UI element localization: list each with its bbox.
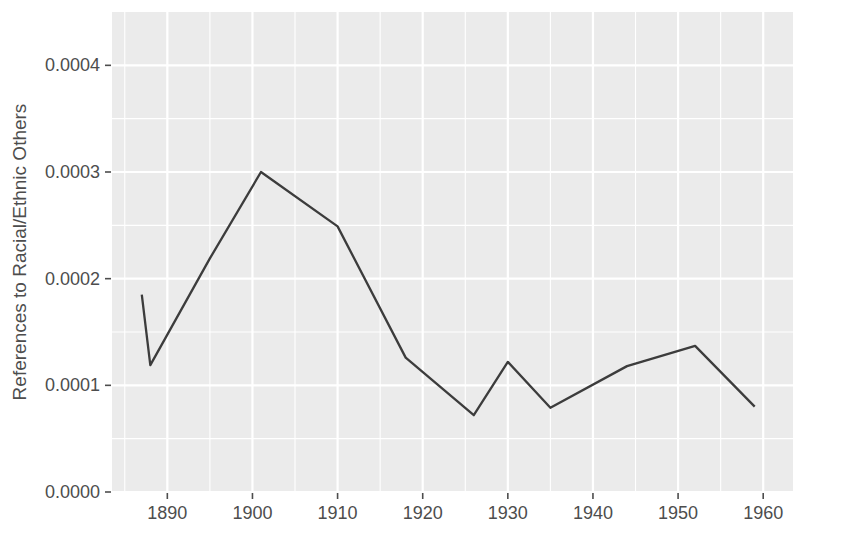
y-tick-label: 0.0004: [45, 55, 100, 75]
x-tick-label: 1910: [318, 503, 358, 523]
y-tick-label: 0.0003: [45, 162, 100, 182]
x-tick-label: 1950: [658, 503, 698, 523]
x-tick-label: 1890: [147, 503, 187, 523]
x-tick-label: 1930: [488, 503, 528, 523]
y-tick-label: 0.0000: [45, 482, 100, 502]
chart-container: 18901900191019201930194019501960 0.00000…: [0, 0, 843, 551]
y-tick-label: 0.0002: [45, 269, 100, 289]
x-tick-label: 1940: [573, 503, 613, 523]
y-axis-title: References to Racial/Ethnic Others: [9, 104, 30, 401]
line-chart: 18901900191019201930194019501960 0.00000…: [0, 0, 843, 551]
x-tick-label: 1960: [743, 503, 783, 523]
x-tick-label: 1900: [232, 503, 272, 523]
x-tick-label: 1920: [403, 503, 443, 523]
y-tick-label: 0.0001: [45, 375, 100, 395]
